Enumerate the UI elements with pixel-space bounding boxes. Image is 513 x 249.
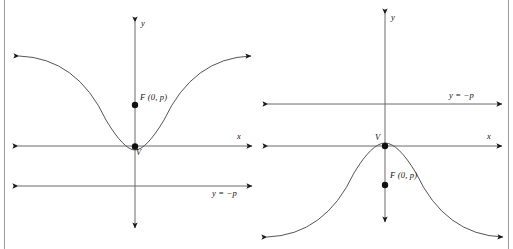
right-vertex-label: V bbox=[375, 133, 380, 142]
figure-canvas bbox=[0, 0, 513, 249]
right-vertex-point bbox=[382, 143, 388, 149]
left-vertex-label: V bbox=[136, 148, 141, 157]
left-directrix-label: y = −p bbox=[212, 189, 237, 198]
right-directrix-label: y = −p bbox=[449, 91, 474, 100]
left-y-axis-label: y bbox=[141, 19, 145, 28]
right-panel-graph bbox=[267, 14, 503, 237]
left-x-axis-label: x bbox=[237, 132, 241, 141]
right-y-axis-label: y bbox=[391, 13, 395, 22]
parabola-figure: y x F (0, p) V y = −p y x y = −p V F (0,… bbox=[0, 0, 513, 249]
right-focus-label: F (0, p) bbox=[390, 171, 417, 180]
right-focus-point bbox=[382, 182, 388, 188]
right-x-axis-label: x bbox=[487, 132, 491, 141]
left-focus-point bbox=[132, 102, 138, 108]
left-focus-label: F (0, p) bbox=[140, 93, 167, 102]
